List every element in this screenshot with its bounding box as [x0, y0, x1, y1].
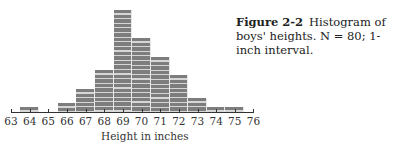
figure-caption: Figure2-2Histogram of boys' heights. N =… — [236, 15, 401, 57]
x-tick-label-74: 74 — [209, 115, 222, 127]
x-tick-74 — [216, 109, 217, 113]
x-tick-63 — [11, 109, 12, 113]
x-tick-76 — [253, 109, 254, 113]
x-axis-label: Height in inches — [101, 130, 189, 142]
figure-label: Figure — [236, 15, 278, 29]
x-tick-66 — [67, 109, 68, 113]
x-tick-65 — [48, 109, 49, 113]
histogram-bar-69 — [114, 10, 133, 112]
histogram-bar-68 — [95, 70, 114, 112]
figure-number: 2-2 — [282, 15, 303, 29]
x-tick-label-72: 72 — [172, 115, 185, 127]
x-tick-label-76: 76 — [247, 115, 260, 127]
x-tick-label-68: 68 — [98, 115, 111, 127]
histogram-chart: 6364656667686970717273747576 Height in i… — [0, 0, 260, 145]
x-tick-label-73: 73 — [191, 115, 204, 127]
histogram-bar-72 — [170, 75, 189, 112]
x-tick-label-63: 63 — [4, 115, 17, 127]
x-tick-72 — [179, 109, 180, 113]
x-tick-71 — [160, 109, 161, 113]
x-tick-label-71: 71 — [154, 115, 167, 127]
x-tick-73 — [198, 109, 199, 113]
x-tick-label-70: 70 — [135, 115, 148, 127]
x-tick-64 — [30, 109, 31, 113]
x-tick-label-69: 69 — [116, 115, 129, 127]
x-tick-label-64: 64 — [23, 115, 36, 127]
x-tick-label-75: 75 — [228, 115, 241, 127]
x-tick-label-66: 66 — [60, 115, 73, 127]
x-tick-70 — [142, 109, 143, 113]
histogram-bar-70 — [132, 38, 151, 112]
x-tick-label-67: 67 — [79, 115, 92, 127]
x-tick-69 — [123, 109, 124, 113]
x-tick-68 — [104, 109, 105, 113]
histogram-bar-71 — [151, 57, 170, 112]
x-tick-75 — [235, 109, 236, 113]
x-tick-label-65: 65 — [42, 115, 55, 127]
x-tick-67 — [86, 109, 87, 113]
